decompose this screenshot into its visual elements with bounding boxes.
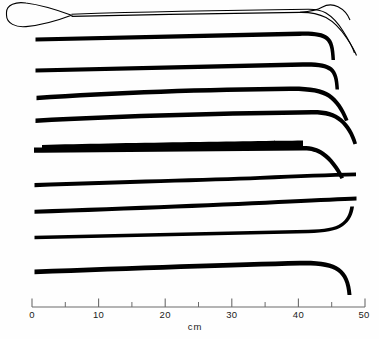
scale-label-30: 30: [226, 309, 237, 320]
scale-unit-label: cm: [188, 321, 203, 332]
figure-background: [0, 0, 379, 339]
scale-label-0: 0: [29, 309, 35, 320]
instrument-plate-figure: 0 10 20 30 40 50 cm: [0, 0, 379, 339]
scale-label-50: 50: [358, 309, 369, 320]
scale-label-40: 40: [293, 309, 304, 320]
scale-label-10: 10: [93, 309, 104, 320]
figure-canvas: 0 10 20 30 40 50 cm: [0, 0, 379, 339]
scale-label-20: 20: [160, 309, 171, 320]
